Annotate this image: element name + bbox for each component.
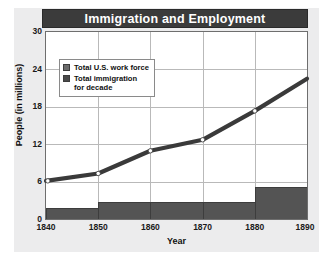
y-tick-24: 24	[33, 65, 42, 74]
marker-1850	[96, 171, 100, 175]
legend-item-immigration: Total immigration for decade	[63, 74, 149, 93]
page-top-margin	[0, 0, 329, 8]
y-tick-6: 6	[37, 177, 42, 186]
legend-label-workforce: Total U.S. work force	[74, 63, 149, 73]
x-tick-1840: 1840	[37, 223, 56, 232]
y-tick-18: 18	[33, 102, 42, 111]
y-tick-30: 30	[33, 27, 42, 36]
y-tick-12: 12	[33, 140, 42, 149]
y-axis-ticks: 30 24 18 12 6 0	[18, 31, 42, 220]
legend-swatch-immigration	[63, 75, 70, 82]
chart-screenshot: Immigration and Employment People (in mi…	[0, 0, 329, 260]
marker-1840	[46, 179, 50, 183]
marker-1880	[253, 109, 257, 113]
x-tick-1860: 1860	[141, 223, 160, 232]
marker-1870	[200, 138, 204, 142]
legend-label-immigration: Total immigration for decade	[74, 74, 137, 93]
x-axis-ticks: 1840 1850 1860 1870 1880 1890	[45, 223, 308, 235]
chart-legend: Total U.S. work force Total immigration …	[59, 59, 155, 97]
page-title: Immigration and Employment	[85, 12, 266, 26]
x-tick-1870: 1870	[193, 223, 212, 232]
legend-item-workforce: Total U.S. work force	[63, 63, 149, 73]
x-tick-1850: 1850	[89, 223, 108, 232]
x-tick-1880: 1880	[245, 223, 264, 232]
marker-1860	[148, 149, 152, 153]
x-axis-label: Year	[45, 236, 308, 246]
x-tick-1890: 1890	[296, 223, 315, 232]
chart-title-bar: Immigration and Employment	[42, 9, 308, 28]
legend-swatch-workforce	[63, 64, 70, 71]
